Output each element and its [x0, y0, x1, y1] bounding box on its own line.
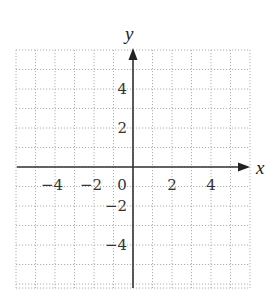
coordinate-plane: x y −4−2024 42−2−4	[0, 0, 279, 296]
x-axis-label: x	[255, 157, 265, 178]
axes	[17, 48, 250, 288]
y-tick-label: 2	[117, 119, 127, 137]
y-tick-label: 4	[117, 80, 127, 98]
x-axis-arrow-icon	[238, 163, 250, 172]
x-tick-label: −4	[41, 176, 63, 194]
x-tick-label: 0	[117, 176, 127, 194]
x-tick-labels: −4−2024	[41, 176, 216, 194]
x-tick-label: −2	[80, 176, 102, 194]
x-tick-label: 2	[167, 176, 177, 194]
y-tick-label: −4	[105, 236, 127, 254]
x-tick-label: 4	[206, 176, 216, 194]
y-tick-label: −2	[105, 197, 127, 215]
y-axis-label: y	[123, 23, 134, 44]
